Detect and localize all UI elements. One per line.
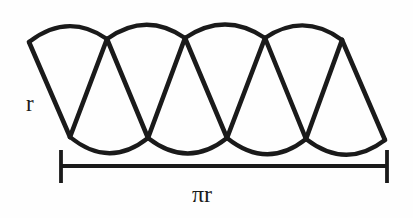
upper-arc-3 bbox=[185, 25, 265, 39]
zigzag-edge-group bbox=[29, 38, 385, 140]
zigzag-edge-5 bbox=[185, 38, 227, 138]
geometry-figure: r πr bbox=[0, 0, 413, 218]
arc-length-label: πr bbox=[192, 182, 212, 206]
zigzag-edge-2 bbox=[70, 39, 107, 137]
zigzag-edge-9 bbox=[342, 40, 385, 140]
upper-arc-4 bbox=[265, 25, 342, 40]
radius-label: r bbox=[26, 92, 34, 115]
lower-arc-2 bbox=[148, 138, 227, 154]
zigzag-edge-1 bbox=[29, 42, 70, 137]
lower-arc-3 bbox=[227, 138, 306, 154]
zigzag-edge-4 bbox=[148, 38, 185, 138]
upper-arc-2 bbox=[107, 25, 185, 39]
zigzag-edge-6 bbox=[227, 38, 265, 138]
zigzag-edge-3 bbox=[107, 39, 148, 138]
lower-arc-1 bbox=[70, 137, 148, 153]
upper-arc-1 bbox=[29, 26, 107, 42]
zigzag-edge-8 bbox=[306, 40, 342, 139]
zigzag-edge-7 bbox=[265, 38, 306, 139]
lower-arc-4 bbox=[306, 139, 385, 155]
